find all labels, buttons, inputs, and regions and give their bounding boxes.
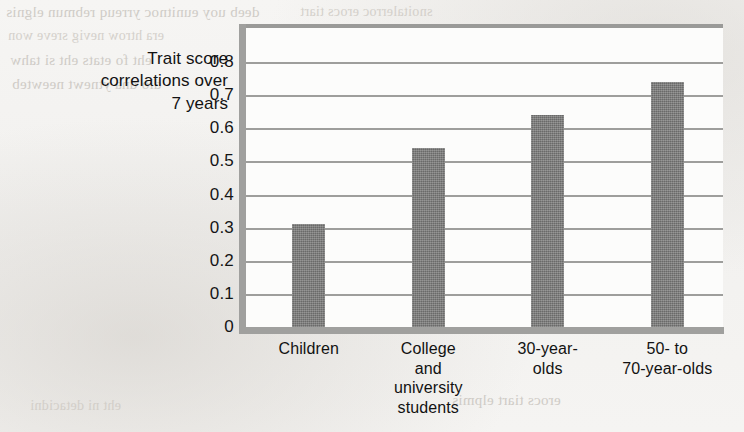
plot-top-border <box>245 24 723 28</box>
y-axis-title-line: 7 years <box>48 93 228 115</box>
bar <box>531 115 564 327</box>
y-tick-label: 0 <box>190 318 234 335</box>
category-label: Children <box>249 339 369 359</box>
category-label-line: 30-year- <box>488 339 608 359</box>
y-tick-label: 0.5 <box>190 152 234 169</box>
category-label-line: and <box>368 359 488 379</box>
category-label-line: students <box>368 398 488 418</box>
bar <box>292 224 325 327</box>
y-tick-label: 0.6 <box>190 119 234 136</box>
category-label: 50- to70-year-olds <box>592 339 742 378</box>
gridline <box>245 62 723 64</box>
y-axis-title-line: correlations over <box>48 70 228 92</box>
category-label: 30-year-olds <box>488 339 608 378</box>
category-label-line: university <box>368 378 488 398</box>
category-label-line: Children <box>249 339 369 359</box>
y-tick-label: 0.4 <box>190 186 234 203</box>
category-label-line: College <box>368 339 488 359</box>
bar <box>651 82 684 327</box>
x-axis-baseline <box>239 327 724 334</box>
y-tick-label: 0.1 <box>190 285 234 302</box>
y-axis-spine <box>239 24 246 334</box>
category-label-line: 50- to <box>592 339 742 359</box>
y-axis-title: Trait scorecorrelations over7 years <box>48 48 228 115</box>
category-label-line: olds <box>488 359 608 379</box>
category-label-line: 70-year-olds <box>592 359 742 379</box>
y-tick-label: 0.2 <box>190 252 234 269</box>
bar <box>412 148 445 327</box>
category-label: Collegeanduniversitystudents <box>368 339 488 417</box>
y-tick-label: 0.3 <box>190 219 234 236</box>
y-axis-title-line: Trait score <box>48 48 228 70</box>
bar-chart: 0.80.70.60.50.40.30.20.10 Trait scorecor… <box>0 0 744 432</box>
